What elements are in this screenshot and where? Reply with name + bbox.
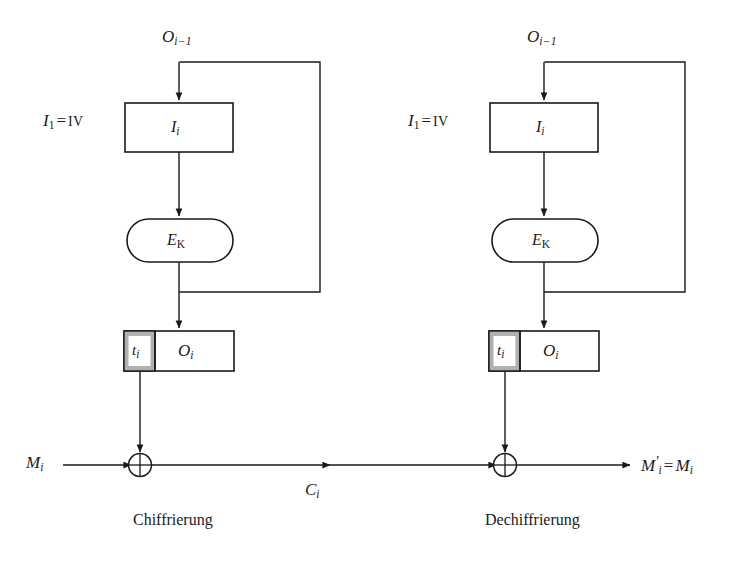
caption-decryption: Dechiffrierung: [485, 512, 580, 528]
iv-label-encryption: I1=IV: [43, 112, 83, 132]
ciphertext-label: Ci: [305, 481, 320, 501]
feedback-label-decryption: Oi−1: [527, 28, 557, 48]
plaintext-out-label-decryption: M′i=Mi: [641, 454, 693, 477]
tag-label-decryption: ti: [497, 343, 505, 361]
plaintext-in-label-encryption: Mi: [26, 454, 44, 474]
diagram-canvas: [0, 0, 744, 565]
input-block-label-decryption: Ii: [536, 119, 545, 138]
cipher-block-label-encryption: EK: [167, 232, 185, 251]
output-label-encryption: Oi: [178, 342, 194, 362]
feedback-label-encryption: Oi−1: [162, 28, 192, 48]
cipher-block-label-decryption: EK: [532, 232, 550, 251]
caption-encryption: Chiffrierung: [133, 512, 213, 528]
tag-label-encryption: ti: [132, 343, 140, 361]
output-label-decryption: Oi: [543, 342, 559, 362]
decryption-panel-graphics: [489, 62, 685, 477]
iv-label-decryption: I1=IV: [408, 112, 448, 132]
input-block-label-encryption: Ii: [171, 119, 180, 138]
